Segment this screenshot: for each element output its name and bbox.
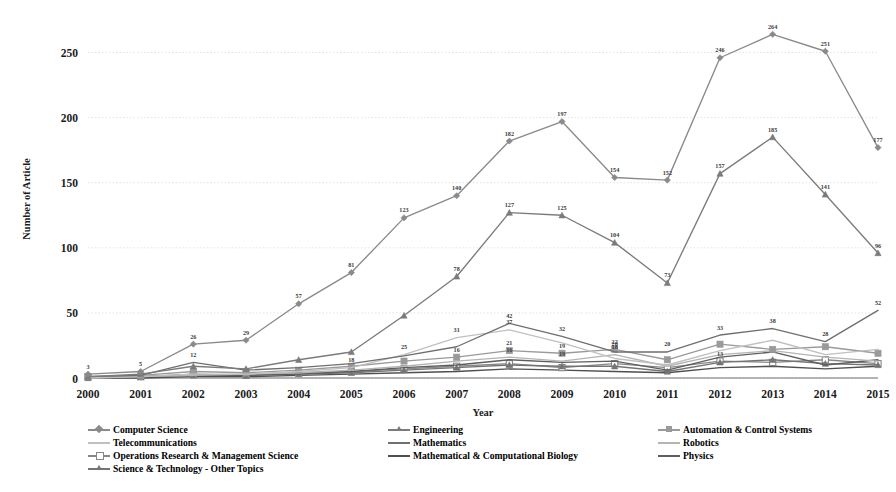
data-point-label: 13: [717, 350, 723, 357]
line-chart: 0501001502002502000200120022003200420052…: [0, 0, 896, 418]
data-point-marker: [770, 134, 776, 140]
x-axis-title: Year: [473, 407, 494, 418]
data-point-label: 20: [664, 340, 670, 347]
y-axis-tick-label: 200: [61, 112, 79, 124]
legend-swatch-none-icon: [88, 438, 110, 447]
data-point-label: 78: [454, 265, 460, 272]
data-point-label: 251: [821, 40, 830, 47]
x-axis-tick-label: 2010: [603, 388, 626, 400]
data-point-label: 52: [875, 299, 881, 306]
data-point-label: 185: [768, 126, 777, 133]
data-point-label: 127: [505, 201, 514, 208]
data-point-label: 3: [86, 363, 89, 370]
legend-item[interactable]: Computer Science: [88, 424, 388, 435]
legend-label: Operations Research & Management Science: [113, 450, 298, 461]
legend-swatch-square-icon: [658, 425, 680, 434]
series-line: [88, 137, 878, 377]
legend-swatch-diamond-icon: [88, 425, 110, 434]
legend-label: Automation & Control Systems: [683, 424, 812, 435]
data-point-label: 81: [348, 261, 354, 268]
data-point-label: 140: [452, 184, 461, 191]
legend-item[interactable]: Robotics: [658, 437, 888, 448]
data-point-label: 42: [506, 312, 512, 319]
data-point-label: 37: [506, 318, 512, 325]
x-axis-tick-label: 2003: [235, 388, 258, 400]
data-point-label: 12: [190, 351, 196, 358]
data-point-label: 96: [875, 242, 881, 249]
data-point-marker: [454, 354, 460, 360]
data-point-marker: [822, 48, 828, 54]
data-point-marker: [770, 346, 776, 352]
y-axis-tick-label: 100: [61, 242, 79, 254]
data-point-label: 182: [505, 130, 514, 137]
x-axis-tick-label: 2012: [709, 388, 732, 400]
data-point-marker: [822, 344, 828, 350]
data-point-label: 177: [873, 136, 882, 143]
legend-item[interactable]: Telecommunications: [88, 437, 388, 448]
data-point-label: 31: [454, 326, 460, 333]
legend-label: Mathematics: [413, 437, 466, 448]
data-point-label: 32: [559, 325, 565, 332]
data-point-marker: [664, 357, 670, 363]
legend-item[interactable]: Mathematical & Computational Biology: [388, 450, 658, 461]
data-point-label: 246: [715, 46, 724, 53]
legend-column: Automation & Control SystemsRoboticsPhys…: [658, 424, 888, 474]
x-axis-tick-label: 2006: [393, 388, 416, 400]
data-point-label: 5: [139, 360, 142, 367]
data-point-marker: [875, 144, 881, 150]
data-point-marker: [190, 341, 196, 347]
data-point-label: 20: [612, 340, 618, 347]
data-point-label: 123: [399, 206, 408, 213]
legend-item[interactable]: Physics: [658, 450, 888, 461]
legend-column: Computer ScienceTelecommunicationsOperat…: [88, 424, 388, 474]
data-point-label: 154: [610, 166, 619, 173]
data-point-label: 157: [715, 162, 724, 169]
legend-swatch-none-icon: [388, 451, 410, 460]
data-point-label: 38: [770, 317, 776, 324]
legend-label: Computer Science: [113, 424, 188, 435]
x-axis-tick-label: 2011: [656, 388, 679, 400]
data-point-label: 73: [664, 271, 670, 278]
legend-label: Telecommunications: [113, 437, 197, 448]
x-axis-tick-label: 2000: [77, 388, 100, 400]
data-point-label: 264: [768, 23, 777, 30]
legend-item[interactable]: Engineering: [388, 424, 658, 435]
data-point-marker: [770, 31, 776, 37]
chart-container: 0501001502002502000200120022003200420052…: [0, 0, 896, 492]
data-point-label: 125: [557, 204, 566, 211]
data-point-label: 141: [821, 183, 830, 190]
legend-label: Robotics: [683, 437, 719, 448]
chart-legend: Computer ScienceTelecommunicationsOperat…: [88, 424, 888, 474]
y-axis-tick-label: 150: [61, 177, 79, 189]
data-point-label: 33: [717, 324, 723, 331]
data-point-label: 28: [822, 330, 828, 337]
legend-swatch-none-icon: [658, 451, 680, 460]
x-axis-tick-label: 2008: [498, 388, 521, 400]
data-point-marker: [612, 240, 618, 246]
legend-label: Science & Technology - Other Topics: [113, 463, 263, 474]
legend-item[interactable]: Automation & Control Systems: [658, 424, 888, 435]
x-axis-tick-label: 2009: [551, 388, 574, 400]
data-point-label: 57: [296, 292, 302, 299]
y-axis-title: Number of Article: [21, 158, 32, 240]
x-axis-tick-label: 2001: [129, 388, 152, 400]
legend-item[interactable]: Science & Technology - Other Topics: [88, 463, 388, 474]
legend-item[interactable]: Operations Research & Management Science: [88, 450, 388, 461]
y-axis-tick-label: 250: [61, 47, 79, 59]
legend-swatch-triangle-icon: [88, 464, 110, 473]
data-point-marker: [664, 177, 670, 183]
x-axis-tick-label: 2002: [182, 388, 205, 400]
data-point-label: 104: [610, 231, 619, 238]
legend-label: Physics: [683, 450, 713, 461]
data-point-label: 18: [348, 356, 354, 363]
series-group: [85, 31, 881, 377]
x-axis-tick-label: 2014: [814, 388, 837, 400]
legend-column: EngineeringMathematicsMathematical & Com…: [388, 424, 658, 474]
data-point-label: 29: [243, 329, 249, 336]
legend-item[interactable]: Mathematics: [388, 437, 658, 448]
legend-swatch-square-open-icon: [88, 451, 110, 460]
x-axis-tick-label: 2004: [287, 388, 310, 400]
x-axis-tick-label: 2015: [867, 388, 890, 400]
data-point-label: 16: [454, 346, 460, 353]
data-point-label: 19: [559, 350, 565, 357]
